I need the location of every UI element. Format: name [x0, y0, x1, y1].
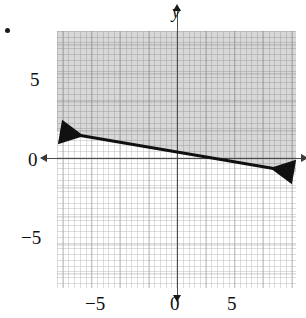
y-tick-label-0: 0	[28, 150, 38, 169]
x-tick-label-neg-5: −5	[85, 294, 105, 313]
y-axis	[177, 10, 178, 300]
y-tick-label-5: 5	[30, 70, 40, 89]
y-tick-label-neg-5: −5	[21, 228, 41, 247]
graph-figure: 5 0 −5 −5 0 5 y	[0, 0, 306, 318]
problem-bullet-icon	[5, 28, 10, 33]
x-axis-left-arrow-icon	[40, 154, 47, 162]
x-axis-right-arrow-icon	[301, 154, 306, 162]
x-tick-label-0: 0	[170, 294, 180, 313]
x-axis	[45, 158, 306, 159]
x-tick-label-5: 5	[227, 294, 237, 313]
y-axis-label: y	[172, 3, 180, 21]
coordinate-plane	[57, 31, 296, 288]
